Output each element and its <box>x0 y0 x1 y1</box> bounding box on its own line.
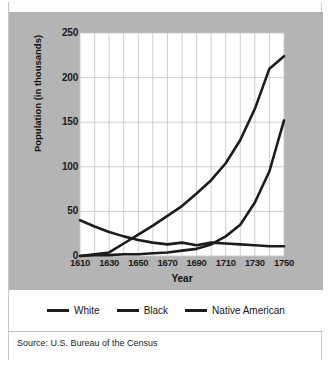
legend-label: White <box>74 305 100 316</box>
x-axis-tick-labels: 16101630165016701690171017301750 <box>80 258 284 272</box>
series-line <box>80 56 284 256</box>
series-line <box>80 120 284 256</box>
x-tick-label: 1630 <box>99 258 119 268</box>
series-lines <box>80 33 284 256</box>
x-tick-label: 1690 <box>187 258 207 268</box>
source-divider <box>9 331 323 332</box>
x-tick-label: 1750 <box>274 258 294 268</box>
legend-item-white[interactable]: White <box>47 305 100 316</box>
y-tick-label: 50 <box>67 206 78 216</box>
legend-label: Black <box>144 305 168 316</box>
series-line <box>80 220 284 246</box>
x-tick-label: 1670 <box>157 258 177 268</box>
y-tick-label: 150 <box>62 117 78 127</box>
x-tick-label: 1650 <box>128 258 148 268</box>
x-tick-label: 1610 <box>70 258 90 268</box>
figure-card: Population (in thousands) 05010015020025… <box>8 2 322 360</box>
x-tick-label: 1730 <box>245 258 265 268</box>
y-axis-title: Population (in thousands) <box>32 19 43 169</box>
plot-area <box>80 33 284 256</box>
y-tick-label: 200 <box>62 73 78 83</box>
chart-legend: WhiteBlackNative American <box>9 290 323 330</box>
legend-item-black[interactable]: Black <box>117 305 168 316</box>
y-axis-tick-labels: 050100150200250 <box>42 33 78 256</box>
legend-item-native-american[interactable]: Native American <box>185 305 285 316</box>
legend-line-icon <box>185 309 207 312</box>
y-tick-label: 100 <box>62 162 78 172</box>
figure-top-strip <box>9 2 321 12</box>
legend-label: Native American <box>212 305 285 316</box>
y-tick-label: 250 <box>62 28 78 38</box>
legend-line-icon <box>47 309 69 312</box>
source-note: Source: U.S. Bureau of the Census <box>17 338 158 348</box>
chart-panel: Population (in thousands) 05010015020025… <box>9 12 323 290</box>
x-axis-title: Year <box>80 273 284 284</box>
x-tick-label: 1710 <box>216 258 236 268</box>
legend-line-icon <box>117 309 139 312</box>
